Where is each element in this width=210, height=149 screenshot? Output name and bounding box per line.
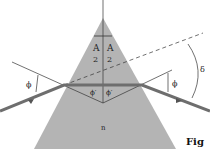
delta-arc [188,44,198,98]
label-2-right: 2 [107,55,112,64]
label-2-left: 2 [93,55,98,64]
label-phi-prime-right: ϕ′ [106,89,113,97]
figure-caption: Fig [186,136,204,147]
label-phi-prime-left: ϕ′ [90,89,97,97]
label-A-right: A [106,43,114,53]
diagram-svg: A A 2 2 ϕ ϕ ϕ′ ϕ′ δ n [0,0,210,149]
label-A-left: A [92,43,100,53]
label-phi-left: ϕ [26,80,32,89]
label-phi-right: ϕ [172,79,178,88]
prism-refraction-diagram: A A 2 2 ϕ ϕ ϕ′ ϕ′ δ n Fig [0,0,210,149]
label-n: n [101,124,106,132]
phi-left-arc [36,75,38,92]
label-delta: δ [200,65,205,74]
